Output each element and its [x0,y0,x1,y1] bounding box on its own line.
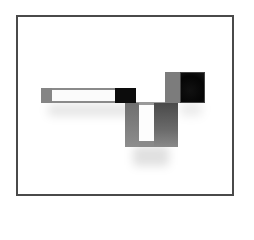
cube-black-face [180,72,205,103]
cube-shadow [180,102,202,116]
u-box-right-wall [154,103,178,147]
u-box-shadow [133,146,169,166]
u-box-left-wall [125,103,139,147]
cube-gray-side [165,72,180,103]
shelf-shadow [48,104,133,116]
long-shelf-black-end [115,88,136,103]
long-shelf-gray-end [41,88,52,103]
long-shelf-white-interior [52,88,115,103]
u-box-top-edge [139,103,154,105]
cube-shelf [165,72,205,103]
u-shaped-box [125,103,178,147]
u-box-white-inner [139,105,154,141]
u-box-bottom [139,141,154,147]
long-shelf [41,88,136,103]
